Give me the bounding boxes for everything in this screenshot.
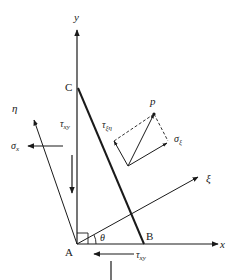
- point-c-label: C: [65, 81, 72, 93]
- sigma-xi-label: σξ: [174, 133, 182, 146]
- y-axis-label: y: [73, 11, 79, 23]
- inclined-plane-cb: [78, 88, 144, 244]
- sigma-x-label: σx: [11, 140, 20, 153]
- eta-axis: [34, 120, 77, 244]
- xi-axis: [77, 177, 198, 244]
- xi-axis-label: ξ: [206, 172, 211, 185]
- dashed-line-top: [114, 114, 154, 141]
- stress-diagram: y x η ξ θ A B C p σξ τξη σx τxy τxy: [0, 0, 228, 280]
- point-p: [152, 112, 155, 115]
- eta-axis-label: η: [12, 102, 17, 114]
- theta-label: θ: [100, 232, 105, 243]
- x-axis-label: x: [219, 238, 225, 250]
- dashed-line-right: [154, 114, 168, 141]
- tau-xi-eta-label: τξη: [102, 119, 113, 132]
- tau-xy-bottom-label: τxy: [136, 249, 147, 262]
- tau-xi-eta-vector: [114, 141, 128, 166]
- point-p-label: p: [149, 95, 156, 107]
- point-a-label: A: [65, 246, 73, 258]
- tau-xy-left-label: τxy: [60, 118, 71, 131]
- theta-arc: [94, 235, 96, 244]
- point-b-label: B: [146, 230, 153, 242]
